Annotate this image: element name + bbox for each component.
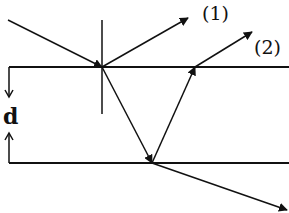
thickness-label: d (3, 105, 18, 127)
refracted-ray-down (102, 67, 152, 163)
diagram-canvas (0, 0, 289, 213)
incident-ray (8, 20, 102, 67)
ray-1-label: (1) (202, 4, 229, 23)
reflected-ray-2 (195, 32, 252, 67)
ray-2-label: (2) (254, 38, 281, 57)
reflected-ray-1 (102, 18, 188, 67)
transmitted-ray (152, 163, 287, 210)
thin-film-diagram: (1) (2) d (0, 0, 289, 213)
internal-reflected-ray-up (152, 67, 195, 163)
